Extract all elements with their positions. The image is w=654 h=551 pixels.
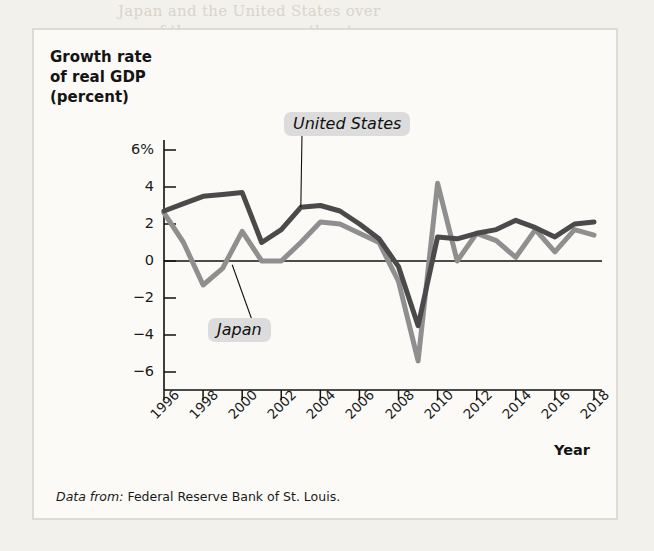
chart-svg [34,30,620,522]
x-axis-title: Year [554,442,590,458]
y-tick-label: −2 [92,289,154,305]
figure-container: Growth rate of real GDP (percent) 6%420−… [32,28,618,520]
leader-line-united-states [301,134,302,207]
y-tick-label: 6% [92,141,154,157]
axis-ticks [164,150,594,400]
source-note: Data from: Federal Reserve Bank of St. L… [56,489,340,504]
y-tick-label: 0 [92,252,154,268]
series-label-united-states: United States [284,112,410,136]
y-tick-label: −6 [92,363,154,379]
y-tick-label: −4 [92,326,154,342]
leader-line-japan [232,265,252,320]
source-prefix: Data from: [56,489,123,504]
y-tick-label: 2 [92,215,154,231]
plot-area [34,30,620,522]
bleed-text: Japan and the United States over [118,2,380,20]
source-text: Federal Reserve Bank of St. Louis. [127,489,340,504]
y-tick-label: 4 [92,178,154,194]
series-label-japan: Japan [208,318,271,342]
